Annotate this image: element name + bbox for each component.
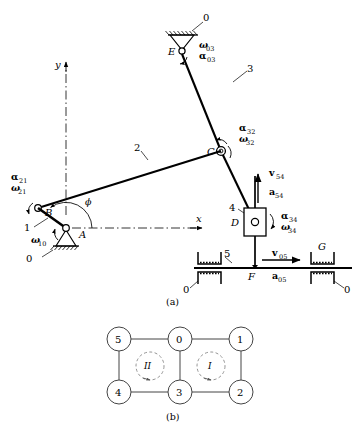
rotation-arc-B [29,203,33,214]
alpha-34-symbol: α [281,210,289,221]
angle-label-phi: ϕ [85,196,92,207]
alpha-21-subscript: 21 [19,177,27,185]
joint-label-A: A [78,229,86,240]
kinematic-label-03: ω 03 α 03 [199,39,215,64]
rotation-arc-D [270,214,273,229]
vector-label-a05: a 05 [272,270,286,284]
link-label-4: 4 [229,202,235,213]
graph-node-label-4: 4 [115,387,121,398]
alpha-21-symbol: α [11,171,19,182]
mechanism-diagram: y x 0 E ω 03 α 03 3 C [0,0,361,429]
link-label-2: 2 [134,142,140,153]
leader-line-1 [34,218,48,227]
graph-node-label-1: 1 [237,334,243,345]
link-label-0-bottom-left: 0 [183,284,189,295]
omega-32-subscript: 32 [246,139,254,147]
caption-a: (a) [166,296,179,307]
link-2 [38,151,221,208]
joint-label-D: D [230,217,239,228]
v54-symbol: v [268,167,275,178]
link-label-3: 3 [247,63,253,74]
x-axis-label: x [196,213,202,224]
alpha-03-symbol: α [199,50,207,61]
v05-symbol: v [271,247,278,258]
kinematic-label-21: α 21 ω 21 [11,171,27,196]
graph-node-label-3: 3 [176,387,182,398]
link-label-0-A: 0 [26,253,32,264]
joint-E [179,48,185,54]
leader-line-0-left [190,281,198,288]
rotation-arc-C-lower [228,146,231,158]
kinematic-label-10: ω 10 [31,234,46,248]
a05-subscript: 05 [278,276,286,284]
joint-A [63,225,70,232]
vector-label-a54: a 54 [269,186,283,200]
v05-subscript: 05 [279,253,287,261]
leader-line-0-A [42,250,53,257]
graph-node-label-0: 0 [176,334,182,345]
link-label-0-top: 0 [203,12,209,23]
graph-node-label-2: 2 [237,387,243,398]
joint-D [251,218,258,225]
leader-line-2 [141,151,148,160]
v54-subscript: 54 [276,173,284,181]
loop-label-I: I [207,361,212,371]
omega-34-subscript: 34 [288,227,296,235]
caption-b: (b) [166,411,180,422]
alpha-32-subscript: 32 [247,128,255,136]
leader-line-0-right [334,281,344,288]
rotation-arc-A [55,229,58,240]
link-label-1: 1 [24,222,30,233]
omega-10-subscript: 10 [38,240,46,248]
y-axis-label: y [54,59,61,70]
vector-label-v05: v 05 [271,247,287,261]
joint-label-G: G [318,241,326,252]
omega-21-subscript: 21 [18,188,26,196]
graph-node-label-5: 5 [115,334,121,345]
alpha-32-symbol: α [239,122,247,133]
leader-line-4 [238,209,244,213]
alpha-34-subscript: 34 [289,216,297,224]
a54-subscript: 54 [275,192,283,200]
omega-03-subscript: 03 [206,45,214,53]
joint-label-E: E [167,46,176,57]
alpha-03-subscript: 03 [207,56,215,64]
kinematic-label-34: α 34 ω 34 [281,210,297,235]
joint-label-F: F [247,271,256,282]
leader-line-0-top [192,22,203,31]
vector-label-v54: v 54 [268,167,284,181]
link-3-upper [182,54,221,151]
link-label-5: 5 [224,248,230,259]
loop-label-II: II [143,361,152,371]
figure-container: y x 0 E ω 03 α 03 3 C [0,0,361,429]
leader-line-3 [233,71,247,82]
link-label-0-bottom-right: 0 [344,284,350,295]
kinematic-label-32: α 32 ω 32 [239,122,255,147]
